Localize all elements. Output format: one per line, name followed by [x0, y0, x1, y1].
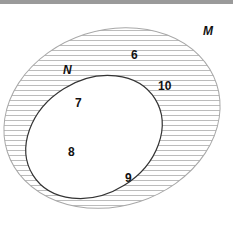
set-label-m: M	[203, 25, 213, 37]
element-7: 7	[75, 97, 82, 109]
venn-diagram-svg	[0, 0, 233, 236]
element-9: 9	[125, 172, 132, 184]
element-8: 8	[68, 146, 75, 158]
element-10: 10	[158, 80, 171, 92]
diagram-canvas: M N 6 10 7 8 9	[0, 0, 233, 236]
element-6: 6	[131, 49, 138, 61]
set-label-n: N	[63, 64, 72, 76]
